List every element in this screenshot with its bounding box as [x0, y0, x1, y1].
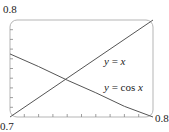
- annotation-y-equals-cos-x: y = cos x: [104, 82, 143, 93]
- annotation-eq: =: [109, 55, 121, 67]
- annotation-eq: = cos: [109, 81, 138, 93]
- annotation-expr: x: [138, 81, 143, 93]
- y-axis-max-label: 0.8: [3, 4, 17, 15]
- series-line-y-equals-x: [10, 20, 153, 117]
- chart-canvas: [0, 0, 169, 132]
- annotation-expr: x: [121, 55, 126, 67]
- annotation-y-equals-x: y = x: [104, 56, 126, 67]
- x-axis-max-label: 0.8: [155, 113, 169, 124]
- x-axis-min-label: 0.7: [0, 121, 14, 132]
